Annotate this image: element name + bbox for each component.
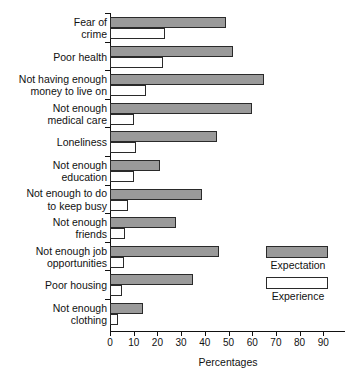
bar-expectation (110, 160, 160, 171)
x-tick (110, 332, 111, 336)
x-axis-title: Percentages (110, 356, 346, 368)
bar-experience (110, 57, 163, 68)
category-label-line: education (0, 171, 107, 183)
bar-expectation (110, 17, 226, 28)
x-tick-label: 50 (217, 337, 241, 348)
bar-experience (110, 142, 136, 153)
category-label-line: Not enough job (0, 245, 107, 257)
bar-expectation (110, 131, 217, 142)
bar-experience (110, 28, 165, 39)
bar-expectation (110, 103, 252, 114)
category-label-line: friends (0, 228, 107, 240)
x-tick-label: 90 (311, 337, 335, 348)
category-label-line: opportunities (0, 257, 107, 269)
y-tick (105, 185, 110, 186)
x-tick-label: 40 (193, 337, 217, 348)
legend-label-expectation: Expectation (253, 259, 343, 272)
bar-expectation (110, 303, 143, 314)
x-axis-line (110, 331, 345, 332)
category-label-line: Not enough (0, 159, 107, 171)
x-tick (252, 332, 253, 336)
category-label-line: Not enough to do (0, 187, 107, 199)
bar-expectation (110, 46, 233, 57)
y-tick (105, 156, 110, 157)
legend-item-experience: Experience (253, 277, 351, 303)
bar-experience (110, 285, 122, 296)
bar-expectation (110, 217, 176, 228)
category-label-line: medical care (0, 114, 107, 126)
y-tick (105, 242, 110, 243)
y-tick (105, 127, 110, 128)
category-label-line: Not enough (0, 216, 107, 228)
category-label: Poor housing (0, 279, 107, 291)
y-tick (105, 13, 110, 14)
category-label-line: Not having enough (0, 73, 107, 85)
x-tick (229, 332, 230, 336)
y-tick (105, 42, 110, 43)
category-label: Loneliness (0, 136, 107, 148)
bar-chart: 0102030405060708090 Fear ofcrimePoor hea… (0, 0, 355, 376)
bar-experience (110, 200, 128, 211)
category-label-line: Not enough (0, 102, 107, 114)
category-label: Not enoughmedical care (0, 102, 107, 126)
x-tick-label: 30 (169, 337, 193, 348)
bar-experience (110, 171, 134, 182)
y-tick (105, 70, 110, 71)
bar-experience (110, 114, 134, 125)
x-tick-label: 0 (98, 337, 122, 348)
x-tick (323, 332, 324, 336)
category-label: Not having enoughmoney to live on (0, 73, 107, 97)
x-tick-label: 10 (122, 337, 146, 348)
category-label-line: to keep busy (0, 200, 107, 212)
x-tick (205, 332, 206, 336)
category-label-line: clothing (0, 314, 107, 326)
category-label-line: Fear of (0, 16, 107, 28)
x-tick (276, 332, 277, 336)
category-label: Poor health (0, 51, 107, 63)
x-tick (181, 332, 182, 336)
legend-item-expectation: Expectation (253, 246, 351, 272)
bar-expectation (110, 74, 264, 85)
category-label-line: crime (0, 28, 107, 40)
category-label: Not enougheducation (0, 159, 107, 183)
x-tick (157, 332, 158, 336)
legend-label-experience: Experience (253, 290, 343, 303)
category-label: Not enoughclothing (0, 302, 107, 326)
x-tick (134, 332, 135, 336)
category-label-line: Loneliness (0, 136, 107, 148)
bar-experience (110, 228, 125, 239)
category-label-line: Poor health (0, 51, 107, 63)
y-tick (105, 299, 110, 300)
legend-swatch-expectation (266, 246, 328, 258)
bar-experience (110, 257, 124, 268)
category-label-line: Not enough (0, 302, 107, 314)
category-label: Fear ofcrime (0, 16, 107, 40)
x-tick-label: 20 (145, 337, 169, 348)
y-tick (105, 213, 110, 214)
category-label: Not enough jobopportunities (0, 245, 107, 269)
category-label-line: money to live on (0, 85, 107, 97)
legend-swatch-experience (266, 277, 328, 289)
x-tick-label: 80 (288, 337, 312, 348)
category-label: Not enoughfriends (0, 216, 107, 240)
x-tick-label: 60 (240, 337, 264, 348)
y-tick (105, 270, 110, 271)
x-tick (300, 332, 301, 336)
bar-expectation (110, 189, 202, 200)
legend: Expectation Experience (253, 246, 351, 308)
category-label: Not enough to doto keep busy (0, 187, 107, 211)
x-tick-label: 70 (264, 337, 288, 348)
y-tick (105, 99, 110, 100)
category-label-line: Poor housing (0, 279, 107, 291)
bar-experience (110, 85, 146, 96)
bar-expectation (110, 274, 193, 285)
bar-expectation (110, 246, 219, 257)
bar-experience (110, 314, 118, 325)
